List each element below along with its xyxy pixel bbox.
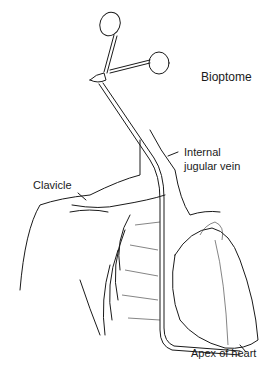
label-internal-jugular-line1: Internal <box>184 146 221 158</box>
label-clavicle: Clavicle <box>33 179 72 191</box>
label-apex-of-heart: Apex of heart <box>191 347 256 359</box>
biopsy-illustration: Bioptome Internal jugular vein Clavicle … <box>0 0 270 366</box>
label-bioptome: Bioptome <box>201 71 252 83</box>
bioptome-ring-top <box>96 9 123 38</box>
heart-outline <box>172 228 258 348</box>
bioptome-ring-right <box>149 52 169 74</box>
label-internal-jugular-line2: jugular vein <box>184 160 240 172</box>
